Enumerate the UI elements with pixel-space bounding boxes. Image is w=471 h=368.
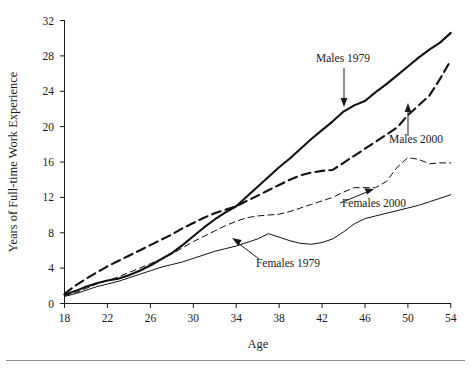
annotation-arrowhead-females-2000 (364, 188, 374, 194)
work-experience-line-chart: 32 28 24 20 16 12 8 4 0 18 22 26 (0, 0, 471, 368)
x-tick-label-46: 46 (359, 312, 371, 324)
annotation-label-males-1979: Males 1979 (316, 52, 370, 64)
x-tick-label-18: 18 (59, 312, 71, 324)
annotation-arrow-females-1979 (238, 243, 259, 259)
chart-figure: 32 28 24 20 16 12 8 4 0 18 22 26 (0, 0, 471, 368)
x-tick-label-30: 30 (188, 312, 200, 324)
y-axis-tick-labels: 32 28 24 20 16 12 8 4 0 (43, 15, 55, 310)
x-axis-tick-labels: 18 22 26 30 34 38 42 46 50 54 (59, 312, 457, 324)
y-tick-label-28: 28 (43, 50, 55, 62)
y-axis-ticks (60, 21, 65, 304)
y-tick-label-32: 32 (43, 15, 55, 27)
annotation-males-2000: Males 2000 (389, 103, 443, 145)
series-line-males-1979 (65, 33, 451, 295)
annotation-males-1979: Males 1979 (316, 52, 370, 107)
annotation-label-females-1979: Females 1979 (256, 257, 320, 269)
x-tick-label-42: 42 (316, 312, 328, 324)
annotation-females-2000: Females 2000 (340, 188, 406, 209)
y-tick-label-8: 8 (48, 227, 54, 239)
x-tick-label-50: 50 (402, 312, 414, 324)
y-tick-label-24: 24 (43, 85, 55, 97)
x-tick-label-38: 38 (273, 312, 285, 324)
annotation-label-males-2000: Males 2000 (389, 133, 443, 145)
y-tick-label-0: 0 (48, 298, 54, 310)
y-axis-title: Years of Full-time Work Experience (6, 71, 20, 252)
y-tick-label-16: 16 (43, 156, 55, 168)
x-tick-label-54: 54 (445, 312, 457, 324)
annotation-arrowhead-males-2000 (405, 103, 412, 112)
y-tick-label-20: 20 (43, 121, 55, 133)
x-tick-label-26: 26 (145, 312, 157, 324)
series-line-females-2000 (65, 158, 451, 296)
x-tick-label-34: 34 (230, 312, 242, 324)
x-axis-title: Age (248, 337, 269, 351)
x-axis-ticks (65, 304, 451, 309)
annotation-arrowhead-males-1979 (341, 98, 348, 107)
series-line-females-1979 (65, 195, 451, 297)
x-tick-label-22: 22 (102, 312, 114, 324)
y-tick-label-4: 4 (48, 262, 54, 274)
y-tick-label-12: 12 (43, 191, 55, 203)
